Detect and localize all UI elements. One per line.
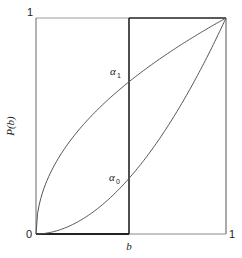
y-tick-1: 1 <box>27 6 33 18</box>
alpha1-label: α 1 <box>110 65 121 79</box>
upper-curve <box>36 18 226 234</box>
lower-curve <box>36 18 226 234</box>
alpha0-label: α 0 <box>109 171 120 185</box>
y-tick-0: 0 <box>26 228 32 240</box>
x-tick-1: 1 <box>229 228 235 240</box>
alpha0-subscript: 0 <box>116 178 120 185</box>
x-tick-b: b <box>126 240 132 252</box>
y-axis-label: P(b) <box>4 116 17 137</box>
alpha1-subscript: 1 <box>117 72 121 79</box>
chart-area: 1 0 b 1 P(b) α 1 α 0 <box>0 0 242 258</box>
alpha1-symbol: α <box>110 65 116 77</box>
alpha0-symbol: α <box>109 171 115 183</box>
